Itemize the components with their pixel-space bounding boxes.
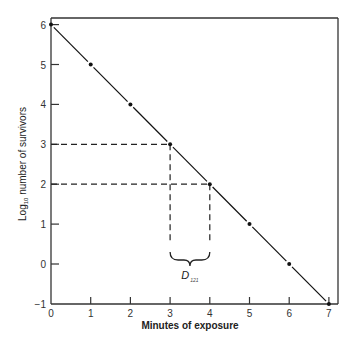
- x-tick-label: 3: [167, 308, 173, 319]
- d-value-brace: D121: [170, 252, 210, 283]
- x-tick-label: 7: [326, 308, 332, 319]
- y-axis-title: Log10 number of survivors: [17, 107, 29, 221]
- plot-frame: [51, 18, 338, 304]
- y-tick-label: 2: [40, 179, 46, 190]
- data-point: [287, 262, 291, 266]
- y-tick-label: 1: [40, 219, 46, 230]
- y-axis-ticks: 6543210−1: [35, 20, 59, 310]
- y-tick-label: 3: [40, 139, 46, 150]
- y-tick-label: 4: [40, 99, 46, 110]
- y-tick-label: 5: [40, 60, 46, 71]
- x-axis-title: Minutes of exposure: [141, 320, 239, 331]
- x-tick-label: 6: [286, 308, 292, 319]
- dashed-guides: [51, 144, 210, 244]
- data-point: [248, 222, 252, 226]
- data-point: [89, 63, 93, 67]
- curve-segment: [94, 67, 128, 101]
- data-point: [327, 302, 331, 306]
- curve-segment: [213, 187, 247, 221]
- data-point: [128, 102, 132, 106]
- y-tick-label: 0: [40, 259, 46, 270]
- data-point: [208, 182, 212, 186]
- data-point: [49, 23, 53, 27]
- y-tick-label: 6: [40, 20, 46, 31]
- survivor-curve-chart: 6543210−1 01234567 D121 Minutes of expos…: [0, 0, 356, 347]
- x-tick-label: 1: [88, 308, 94, 319]
- x-tick-label: 4: [207, 308, 213, 319]
- x-axis-ticks: 01234567: [48, 297, 332, 319]
- curve-segment: [173, 147, 207, 181]
- curve-segment: [54, 27, 88, 61]
- d-value-label: D121: [181, 269, 199, 283]
- x-tick-label: 0: [48, 308, 54, 319]
- curve-segment: [133, 107, 167, 141]
- curve-segment: [252, 227, 286, 261]
- y-tick-label: −1: [35, 299, 47, 310]
- x-tick-label: 2: [128, 308, 134, 319]
- data-point: [168, 142, 172, 146]
- curve-segment: [292, 267, 326, 301]
- x-tick-label: 5: [247, 308, 253, 319]
